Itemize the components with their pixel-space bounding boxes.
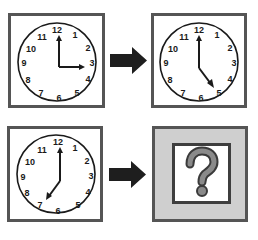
clock-number-10: 10 <box>168 44 178 54</box>
clock-number-11: 11 <box>37 32 47 42</box>
clock-number-2: 2 <box>85 43 90 53</box>
clock-panel-1: 12 1 2 3 4 5 6 7 8 9 10 11 <box>8 13 105 108</box>
clock-number-7: 7 <box>38 88 43 98</box>
clock-number-11: 11 <box>179 32 189 42</box>
clock-number-1: 1 <box>214 30 219 40</box>
clock-number-9: 9 <box>163 58 168 68</box>
clock-number-8: 8 <box>167 75 172 85</box>
clock-number-12: 12 <box>194 25 204 35</box>
clock-number-8: 8 <box>25 75 30 85</box>
clock-number-12: 12 <box>53 137 63 147</box>
clock-number-9: 9 <box>20 172 25 182</box>
answer-panel-unknown <box>152 126 248 222</box>
clock-icon-3-oclock: 12 1 2 3 4 5 6 7 8 9 10 11 <box>11 16 102 105</box>
clock-number-9: 9 <box>21 58 26 68</box>
clock-number-1: 1 <box>72 143 77 153</box>
clock-number-7: 7 <box>37 200 42 210</box>
clock-number-1: 1 <box>72 30 77 40</box>
clock-number-5: 5 <box>74 88 79 98</box>
clock-number-4: 4 <box>85 74 90 84</box>
clock-number-12: 12 <box>52 25 62 35</box>
clock-number-4: 4 <box>227 74 232 84</box>
clock-number-10: 10 <box>26 44 36 54</box>
question-mark-icon <box>175 146 228 201</box>
clock-number-6: 6 <box>56 93 61 103</box>
clock-number-10: 10 <box>25 157 35 167</box>
clock-number-7: 7 <box>180 88 185 98</box>
clock-icon-5-oclock: 12 1 2 3 4 5 6 7 8 9 10 11 <box>154 16 244 105</box>
clock-number-4: 4 <box>85 187 90 197</box>
clock-number-3: 3 <box>89 58 94 68</box>
clock-number-2: 2 <box>84 156 89 166</box>
clock-number-5: 5 <box>216 88 221 98</box>
clock-number-6: 6 <box>55 206 60 216</box>
clock-number-8: 8 <box>24 188 29 198</box>
clock-number-6: 6 <box>198 93 203 103</box>
clock-number-3: 3 <box>231 58 236 68</box>
right-arrow-icon-1 <box>110 47 148 74</box>
right-arrow-icon-2 <box>109 161 147 188</box>
clock-number-2: 2 <box>227 43 232 53</box>
clock-icon-7-oclock: 12 1 2 3 4 5 6 7 8 9 10 11 <box>10 129 100 219</box>
clock-panel-3: 12 1 2 3 4 5 6 7 8 9 10 11 <box>7 126 103 222</box>
clock-number-11: 11 <box>37 145 47 155</box>
question-box <box>172 143 231 204</box>
clock-number-5: 5 <box>75 200 80 210</box>
clock-number-3: 3 <box>88 171 93 181</box>
clock-panel-2: 12 1 2 3 4 5 6 7 8 9 10 11 <box>151 13 247 108</box>
